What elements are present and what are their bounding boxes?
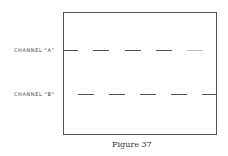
channel-b-dash [109, 94, 125, 95]
channel-a-dash [93, 50, 109, 51]
channel-a-dash [125, 50, 141, 51]
caption-text: Figure 37 [112, 140, 152, 149]
channel-b-dash [140, 94, 156, 95]
channel-a-dash [187, 50, 203, 51]
channel-a-label: CHANNEL "A" [14, 47, 54, 53]
signal-frame [63, 12, 217, 135]
channel-b-dash [171, 94, 187, 95]
channel-b-dash [78, 94, 94, 95]
channel-a-dash [63, 50, 78, 51]
channel-b-dash [202, 94, 217, 95]
channel-a-dash [156, 50, 172, 51]
channel-b-label: CHANNEL "B" [14, 91, 54, 97]
